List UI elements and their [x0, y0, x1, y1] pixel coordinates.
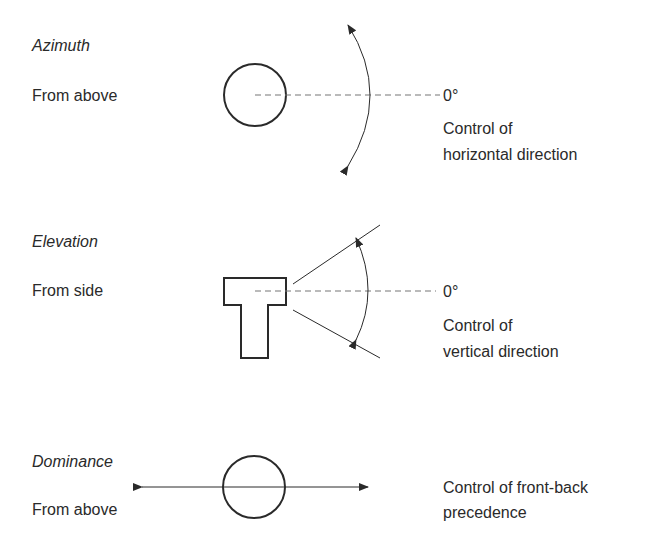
azimuth-diagram	[224, 25, 440, 166]
elevation-description-line1: Control of	[443, 316, 512, 336]
dominance-description-line1: Control of front-back	[443, 478, 588, 498]
dominance-title: Dominance	[32, 452, 113, 472]
azimuth-title: Azimuth	[32, 36, 90, 56]
elevation-diagram	[224, 225, 436, 358]
azimuth-zero-label: 0°	[443, 86, 458, 106]
vertical-rotation-arc-arrow	[356, 238, 368, 340]
elevation-description-line2: vertical direction	[443, 342, 559, 362]
dominance-view-label: From above	[32, 500, 117, 520]
azimuth-view-label: From above	[32, 86, 117, 106]
diagram-canvas	[0, 0, 655, 556]
dominance-diagram	[142, 456, 368, 518]
lower-limit-line	[293, 310, 380, 358]
azimuth-description-line2: horizontal direction	[443, 145, 577, 165]
elevation-zero-label: 0°	[443, 282, 458, 302]
head-side-view-icon	[224, 278, 286, 358]
elevation-view-label: From side	[32, 281, 103, 301]
dominance-description-line2: precedence	[443, 503, 527, 523]
elevation-title: Elevation	[32, 232, 98, 252]
azimuth-description-line1: Control of	[443, 119, 512, 139]
